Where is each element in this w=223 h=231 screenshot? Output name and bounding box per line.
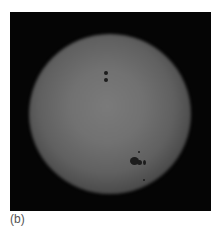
sunspot [138,151,140,153]
solar-disk [29,34,191,194]
sunspot [104,78,108,82]
figure-caption: (b) [10,212,25,226]
sunspot [104,71,108,75]
sunspot [143,179,145,181]
sun-photograph [10,12,211,211]
sunspot [137,160,142,165]
sunspot [143,160,146,165]
